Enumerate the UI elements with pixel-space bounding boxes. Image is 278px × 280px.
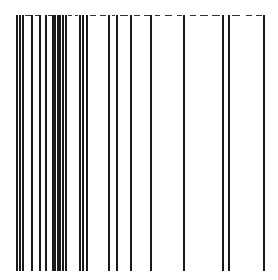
top-border-dash xyxy=(212,15,220,16)
vertical-line xyxy=(59,15,61,271)
vertical-line xyxy=(62,15,64,271)
vertical-line xyxy=(39,15,41,271)
top-border-dash xyxy=(165,15,172,16)
top-border-dash xyxy=(134,15,140,16)
top-border-dash xyxy=(75,15,78,16)
top-border-dash xyxy=(90,15,96,16)
vertical-line xyxy=(183,15,185,271)
vertical-line xyxy=(65,15,67,271)
vertical-line xyxy=(82,15,84,271)
top-border-dash xyxy=(256,15,262,16)
vertical-line xyxy=(228,15,230,271)
top-border-dash xyxy=(246,15,252,16)
top-border-dash xyxy=(232,15,240,16)
vertical-line xyxy=(86,15,88,271)
line-pattern-figure xyxy=(0,0,278,280)
top-border-dash xyxy=(120,15,128,16)
top-border-dash xyxy=(155,15,160,16)
vertical-line xyxy=(22,15,24,271)
top-border-dash xyxy=(100,15,106,16)
top-border-dash xyxy=(177,15,182,16)
vertical-line xyxy=(19,15,21,271)
vertical-line xyxy=(108,15,110,271)
vertical-line xyxy=(222,15,224,271)
vertical-line xyxy=(116,15,118,271)
top-border-dash xyxy=(25,15,31,16)
vertical-line xyxy=(54,15,56,271)
vertical-line xyxy=(263,15,265,271)
top-border-dash xyxy=(35,15,39,16)
top-border-dash xyxy=(68,15,72,16)
top-border-dash xyxy=(200,15,208,16)
vertical-line xyxy=(79,15,81,271)
top-border-dash xyxy=(112,15,115,16)
vertical-line xyxy=(31,15,33,271)
top-border-dash xyxy=(144,15,150,16)
vertical-line xyxy=(150,15,152,271)
top-border-dash xyxy=(48,15,52,16)
vertical-line xyxy=(130,15,132,271)
vertical-line xyxy=(45,15,47,271)
top-border-dash xyxy=(190,15,196,16)
vertical-line xyxy=(16,15,18,271)
